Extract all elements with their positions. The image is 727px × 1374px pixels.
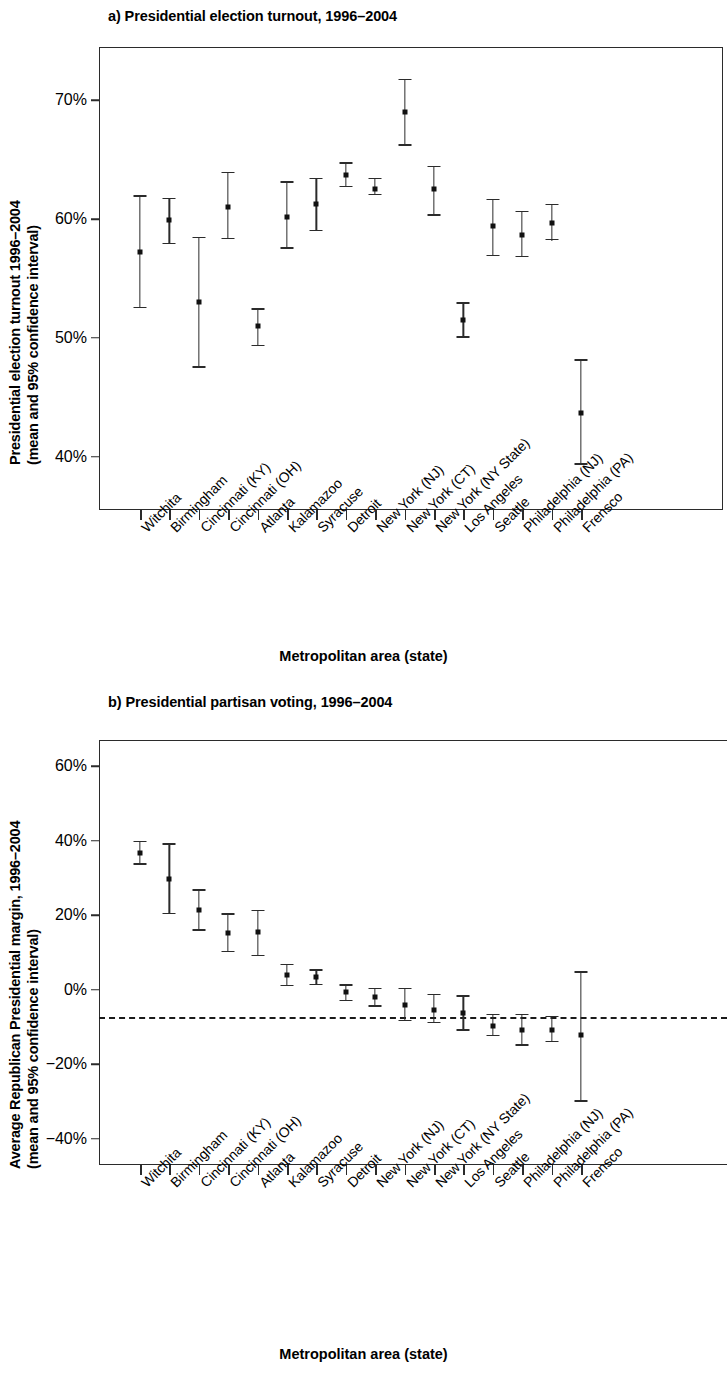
y-tick-label: 60%	[21, 757, 87, 775]
mean-marker	[579, 410, 584, 415]
x-tick-mark	[258, 510, 260, 520]
error-bar-cap-lower	[545, 1041, 558, 1042]
error-bar-point	[367, 988, 383, 1007]
error-bar-point	[514, 1014, 530, 1046]
y-tick-mark	[91, 1064, 99, 1066]
error-bar-point	[308, 178, 324, 231]
error-bar-cap-lower	[134, 307, 147, 308]
y-tick-mark	[91, 765, 99, 767]
error-bar-cap-upper	[486, 1014, 499, 1015]
error-bar-point	[191, 237, 207, 368]
error-bar-cap-lower	[339, 1000, 352, 1001]
error-bar-cap-lower	[339, 186, 352, 187]
error-bar-cap-upper	[222, 913, 235, 914]
error-bar-cap-upper	[516, 1014, 529, 1015]
mean-marker	[138, 250, 143, 255]
error-bar-cap-upper	[163, 198, 176, 199]
error-bar-cap-upper	[134, 841, 147, 842]
error-bar-cap-upper	[369, 178, 382, 179]
error-bar-cap-upper	[192, 889, 205, 890]
x-tick-mark	[434, 510, 436, 520]
error-bar-cap-upper	[486, 199, 499, 200]
error-bar-point	[514, 211, 530, 257]
error-bar-point	[161, 843, 177, 914]
y-tick-label: −40%	[21, 1130, 87, 1148]
error-bar-cap-upper	[575, 359, 588, 360]
x-tick-mark	[581, 510, 583, 520]
y-tick-mark	[91, 456, 99, 458]
error-bar-cap-upper	[339, 984, 352, 985]
y-tick-label: −20%	[21, 1055, 87, 1073]
x-tick-mark	[287, 1165, 289, 1175]
error-bar-point	[573, 971, 589, 1101]
error-bar-cap-lower	[398, 144, 411, 145]
error-bar-cap-upper	[222, 172, 235, 173]
error-bar-cap-upper	[369, 988, 382, 989]
error-bar-cap-lower	[516, 256, 529, 257]
x-tick-mark	[405, 1165, 407, 1175]
error-bar-point	[455, 302, 471, 338]
error-bar-point	[161, 198, 177, 244]
y-tick-label: 60%	[21, 210, 87, 228]
error-bar-cap-lower	[457, 336, 470, 337]
error-bar-cap-upper	[134, 195, 147, 196]
error-bar-cap-upper	[545, 1016, 558, 1017]
error-bar-point	[250, 308, 266, 346]
x-tick-mark	[199, 1165, 201, 1175]
x-tick-mark	[375, 510, 377, 520]
error-bar-cap-lower	[134, 863, 147, 864]
error-bar-cap-upper	[398, 79, 411, 80]
x-tick-mark	[552, 1165, 554, 1175]
error-bar-point	[191, 889, 207, 931]
mean-marker	[579, 1032, 584, 1037]
x-tick-mark	[346, 510, 348, 520]
error-bar-point	[220, 913, 236, 952]
mean-marker	[373, 995, 378, 1000]
mean-marker	[285, 214, 290, 219]
error-bar-cap-lower	[457, 1029, 470, 1030]
mean-marker	[520, 1028, 525, 1033]
error-bar-cap-lower	[163, 913, 176, 914]
x-tick-mark	[199, 510, 201, 520]
error-bar-point	[338, 984, 354, 1001]
error-bar-cap-upper	[251, 308, 264, 309]
mean-marker	[285, 972, 290, 977]
panel-a-x-axis-label: Metropolitan area (state)	[0, 648, 727, 664]
x-tick-mark	[228, 1165, 230, 1175]
mean-marker	[226, 930, 231, 935]
x-tick-mark	[287, 510, 289, 520]
error-bar-cap-upper	[575, 971, 588, 972]
x-tick-mark	[493, 1165, 495, 1175]
error-bar-cap-upper	[457, 995, 470, 996]
error-bar-cap-upper	[545, 204, 558, 205]
mean-marker	[314, 201, 319, 206]
panel-b-x-axis-label: Metropolitan area (state)	[0, 1346, 727, 1362]
error-bar-point	[573, 359, 589, 465]
mean-marker	[432, 1007, 437, 1012]
error-bar-cap-lower	[281, 985, 294, 986]
error-bar-point	[338, 162, 354, 187]
x-tick-mark	[346, 1165, 348, 1175]
error-bar-cap-lower	[486, 1035, 499, 1036]
y-tick-label: 0%	[21, 981, 87, 999]
y-tick-mark	[91, 914, 99, 916]
error-bar-cap-upper	[310, 178, 323, 179]
mean-marker	[196, 300, 201, 305]
error-bar-cap-upper	[428, 166, 441, 167]
y-tick-mark	[91, 100, 99, 102]
x-tick-mark	[552, 510, 554, 520]
y-tick-label: 70%	[21, 91, 87, 109]
error-bar-cap-lower	[486, 255, 499, 256]
mean-marker	[226, 205, 231, 210]
y-tick-mark	[91, 989, 99, 991]
error-bar-cap-lower	[575, 463, 588, 464]
error-bar-cap-lower	[398, 1020, 411, 1021]
y-tick-mark	[91, 218, 99, 220]
mean-marker	[343, 989, 348, 994]
error-bar-cap-upper	[281, 964, 294, 965]
panel-b-partisan: b) Presidential partisan voting, 1996–20…	[0, 680, 727, 1374]
error-bar-cap-lower	[545, 239, 558, 240]
mean-marker	[549, 1028, 554, 1033]
error-bar-cap-lower	[428, 214, 441, 215]
error-bar-point	[250, 910, 266, 957]
